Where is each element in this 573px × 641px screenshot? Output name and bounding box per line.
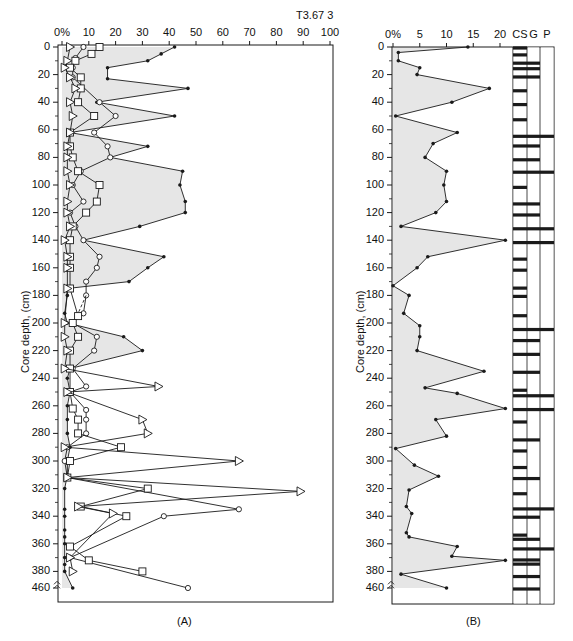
- figure-canvas: [0, 0, 573, 641]
- x-tick-label: 15: [467, 28, 479, 40]
- y-tick-label: 20: [372, 68, 384, 80]
- y-tick-label: 200: [366, 316, 384, 328]
- y-tick-label: 300: [32, 454, 50, 466]
- strip-column-header: G: [529, 28, 538, 40]
- x-tick-label: 0%: [385, 28, 401, 40]
- y-tick-label: 460: [32, 581, 50, 593]
- x-tick-label: 10: [440, 28, 452, 40]
- y-tick-label: 380: [366, 564, 384, 576]
- y-tick-label: 180: [366, 288, 384, 300]
- y-tick-label: 300: [366, 454, 384, 466]
- y-tick-label: 120: [366, 206, 384, 218]
- y-tick-label: 80: [38, 150, 50, 162]
- y-tick-label: 260: [32, 399, 50, 411]
- strip-column-header: P: [543, 28, 550, 40]
- x-tick-label: 70: [243, 26, 255, 38]
- x-tick-label: 80: [270, 26, 282, 38]
- y-tick-label: 280: [32, 426, 50, 438]
- y-tick-label: 380: [32, 564, 50, 576]
- y-tick-label: 60: [38, 123, 50, 135]
- panel-b-label: (B): [466, 615, 481, 627]
- y-tick-label: 360: [366, 537, 384, 549]
- figure-title: T3.67 3: [296, 9, 333, 21]
- x-tick-label: 10: [83, 26, 95, 38]
- panel-a-y-axis-label: Core depth, (cm): [19, 290, 31, 373]
- y-tick-label: 100: [32, 178, 50, 190]
- x-tick-label: 20: [494, 28, 506, 40]
- y-tick-label: 360: [32, 537, 50, 549]
- x-tick-label: 60: [217, 26, 229, 38]
- panel-a-plot: [53, 41, 333, 602]
- y-tick-label: 60: [372, 123, 384, 135]
- x-tick-label: 90: [297, 26, 309, 38]
- y-tick-label: 220: [366, 344, 384, 356]
- y-tick-label: 260: [366, 399, 384, 411]
- y-tick-label: 340: [366, 509, 384, 521]
- y-tick-label: 320: [32, 482, 50, 494]
- panel-b-plot: [387, 43, 554, 604]
- y-tick-label: 460: [366, 581, 384, 593]
- y-tick-label: 180: [32, 288, 50, 300]
- y-tick-label: 80: [372, 150, 384, 162]
- y-tick-label: 160: [366, 261, 384, 273]
- y-tick-label: 220: [32, 344, 50, 356]
- x-tick-label: 5: [417, 28, 423, 40]
- strip-column-header: CS: [512, 28, 527, 40]
- y-tick-label: 100: [366, 178, 384, 190]
- y-tick-label: 340: [32, 509, 50, 521]
- x-tick-label: 20: [109, 26, 121, 38]
- y-tick-label: 320: [366, 482, 384, 494]
- y-tick-label: 20: [38, 68, 50, 80]
- x-tick-label: 30: [136, 26, 148, 38]
- panel-b-y-axis-label: Core depth, (cm): [354, 290, 366, 373]
- y-tick-label: 140: [366, 233, 384, 245]
- x-tick-label: 100: [321, 26, 339, 38]
- y-tick-label: 160: [32, 261, 50, 273]
- y-tick-label: 40: [372, 95, 384, 107]
- y-tick-label: 0: [44, 40, 50, 52]
- y-tick-label: 120: [32, 206, 50, 218]
- y-tick-label: 280: [366, 426, 384, 438]
- y-tick-label: 0: [378, 40, 384, 52]
- y-tick-label: 240: [32, 371, 50, 383]
- x-tick-label: 40: [163, 26, 175, 38]
- y-tick-label: 240: [366, 371, 384, 383]
- y-tick-label: 200: [32, 316, 50, 328]
- x-tick-label: 0%: [54, 26, 70, 38]
- panel-a-label: (A): [177, 615, 192, 627]
- x-tick-label: 50: [190, 26, 202, 38]
- y-tick-label: 40: [38, 95, 50, 107]
- y-tick-label: 140: [32, 233, 50, 245]
